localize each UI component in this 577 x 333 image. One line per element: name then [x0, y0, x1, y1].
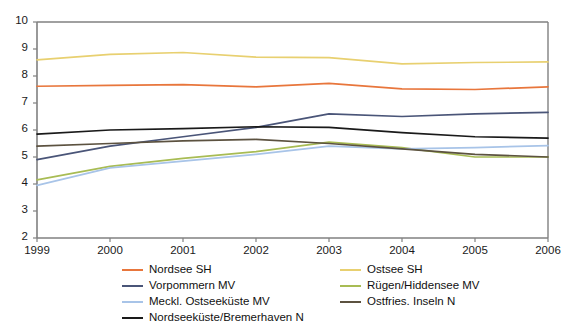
y-tick-label: 9	[4, 41, 28, 53]
legend-color-swatch	[122, 301, 143, 303]
x-tick-label: 2006	[525, 244, 571, 256]
series-line-6	[37, 127, 548, 138]
x-tick-label: 2001	[160, 244, 206, 256]
y-tick-label: 4	[4, 176, 28, 188]
legend-item-label: Ostsee SH	[367, 263, 423, 276]
legend-item-label: Nordsee SH	[149, 263, 212, 276]
y-tick-label: 3	[4, 203, 28, 215]
legend-item[interactable]: Vorpommern MV	[122, 278, 304, 293]
legend-item[interactable]: Rügen/Hiddensee MV	[340, 278, 480, 293]
y-tick-label: 2	[4, 230, 28, 242]
legend-color-swatch	[122, 317, 143, 319]
series-lines	[37, 53, 548, 186]
legend-item-label: Meckl. Ostseeküste MV	[149, 295, 270, 308]
chart-legend: Nordsee SHVorpommern MVMeckl. Ostseeküst…	[122, 262, 562, 328]
series-line-0	[37, 83, 548, 89]
x-tick-label: 2000	[87, 244, 133, 256]
x-tick-label: 2005	[452, 244, 498, 256]
legend-item[interactable]: Ostfries. Inseln N	[340, 294, 480, 309]
x-tick-label: 1999	[14, 244, 60, 256]
legend-item-label: Nordseeküste/Bremerhaven N	[149, 311, 304, 324]
legend-color-swatch	[340, 301, 361, 303]
legend-color-swatch	[340, 269, 361, 271]
legend-item-label: Rügen/Hiddensee MV	[367, 279, 480, 292]
line-chart: 1098765432 19992000200120022003200420052…	[0, 0, 577, 333]
series-line-1	[37, 53, 548, 64]
y-tick-label: 10	[4, 14, 28, 26]
legend-color-swatch	[122, 285, 143, 287]
x-tick-label: 2003	[306, 244, 352, 256]
x-tick-label: 2004	[379, 244, 425, 256]
y-tick-label: 6	[4, 122, 28, 134]
y-tick-label: 8	[4, 68, 28, 80]
y-tick-label: 7	[4, 95, 28, 107]
legend-column-right: Ostsee SHRügen/Hiddensee MVOstfries. Ins…	[340, 262, 480, 310]
legend-color-swatch	[122, 269, 143, 271]
legend-item[interactable]: Nordseeküste/Bremerhaven N	[122, 310, 304, 325]
legend-item-label: Vorpommern MV	[149, 279, 235, 292]
legend-item[interactable]: Meckl. Ostseeküste MV	[122, 294, 304, 309]
legend-item[interactable]: Nordsee SH	[122, 262, 304, 277]
legend-color-swatch	[340, 285, 361, 287]
legend-column-left: Nordsee SHVorpommern MVMeckl. Ostseeküst…	[122, 262, 304, 326]
legend-item[interactable]: Ostsee SH	[340, 262, 480, 277]
x-tick-label: 2002	[233, 244, 279, 256]
y-tick-label: 5	[4, 149, 28, 161]
legend-item-label: Ostfries. Inseln N	[367, 295, 455, 308]
